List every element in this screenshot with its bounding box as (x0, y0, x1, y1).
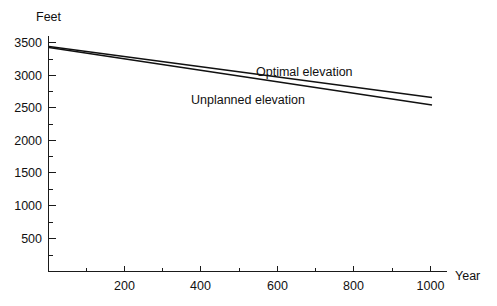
chart-figure: Feet Year 3500 3000 (0, 0, 497, 306)
x-tick-label: 400 (190, 279, 211, 293)
elevation-line-chart: Feet Year 3500 3000 (0, 0, 497, 306)
x-tick-label: 600 (267, 279, 288, 293)
x-axis-major-ticks (125, 266, 431, 272)
x-axis-label: Year (455, 269, 480, 283)
y-axis-tick-labels: 3500 3000 2500 2000 1500 1000 500 (14, 36, 42, 246)
y-tick-label: 2500 (14, 101, 42, 115)
x-tick-label: 1000 (417, 279, 445, 293)
y-axis-major-ticks (49, 43, 56, 239)
y-tick-label: 3000 (14, 69, 42, 83)
y-tick-label: 2000 (14, 134, 42, 148)
series-label-optimal-elevation: Optimal elevation (256, 65, 353, 79)
y-axis-label: Feet (36, 10, 62, 24)
y-tick-label: 1500 (14, 166, 42, 180)
y-tick-label: 500 (21, 232, 42, 246)
y-tick-label: 1000 (14, 199, 42, 213)
y-tick-label: 3500 (14, 36, 42, 50)
x-tick-label: 800 (343, 279, 364, 293)
x-axis-tick-labels: 200 400 600 800 1000 (114, 279, 444, 293)
x-tick-label: 200 (114, 279, 135, 293)
series-line-optimal-elevation (49, 47, 432, 98)
series-label-unplanned-elevation: Unplanned elevation (191, 93, 305, 107)
